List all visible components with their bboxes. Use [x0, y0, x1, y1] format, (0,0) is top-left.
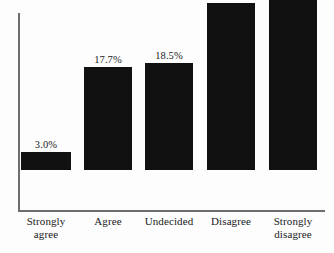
bar-value-label: 29.5%	[217, 0, 245, 1]
bar[interactable]	[145, 63, 193, 170]
y-axis-line	[18, 13, 20, 212]
x-axis-tick-label: Strongly disagree	[253, 215, 333, 241]
bar-value-label: 18.5%	[155, 50, 183, 61]
bar-group: 18.5%	[145, 63, 193, 170]
bar[interactable]	[269, 0, 317, 170]
plot-area: 3.0% 17.7% 18.5% 29.5% 31.1%	[0, 0, 334, 212]
x-axis-line	[18, 210, 325, 212]
bar-value-label: 17.7%	[94, 54, 122, 65]
bar-group: 17.7%	[84, 67, 132, 170]
bar-value-label: 3.0%	[35, 139, 57, 150]
bar[interactable]	[21, 152, 71, 170]
bar[interactable]	[84, 67, 132, 170]
bar-group: 29.5%	[207, 3, 255, 170]
bar[interactable]	[207, 3, 255, 170]
bar-group: 3.0%	[21, 152, 71, 170]
bar-group: 31.1%	[269, 0, 317, 170]
bar-chart: 3.0% 17.7% 18.5% 29.5% 31.1% Strongly ag…	[0, 0, 334, 253]
